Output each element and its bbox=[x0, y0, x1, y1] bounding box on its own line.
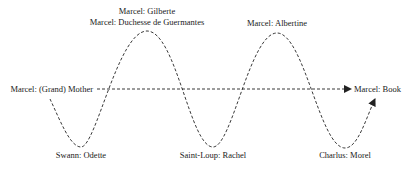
wave-curve bbox=[50, 31, 375, 148]
label-trough-2: Saint-Loup: Rachel bbox=[180, 150, 247, 160]
label-start: Marcel: (Grand) Mother bbox=[10, 84, 93, 94]
label-trough-1: Swann: Odette bbox=[56, 150, 107, 160]
label-peak-1-top: Marcel: Gilberte bbox=[119, 6, 176, 16]
relationship-wave-diagram: Marcel: Gilberte Marcel: Duchesse de Gue… bbox=[0, 0, 409, 169]
label-peak-1-bottom: Marcel: Duchesse de Guermantes bbox=[90, 17, 204, 27]
label-end: Marcel: Book bbox=[354, 84, 402, 94]
label-trough-3: Charlus: Morel bbox=[319, 150, 371, 160]
label-peak-2: Marcel: Albertine bbox=[247, 18, 307, 28]
